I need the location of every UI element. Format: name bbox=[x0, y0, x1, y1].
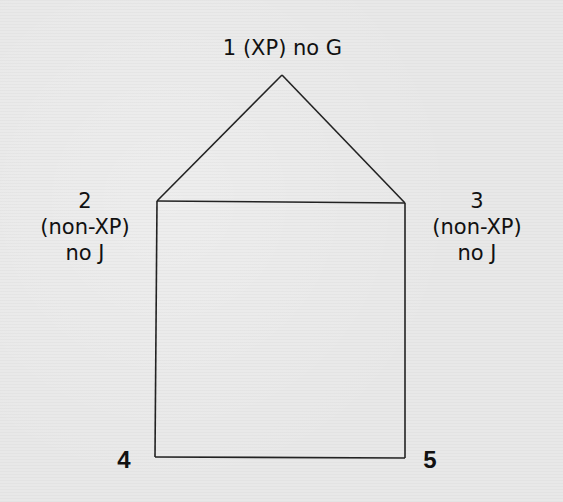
edge-4-5 bbox=[155, 457, 405, 458]
edge-2-3 bbox=[157, 201, 405, 203]
node-3-constraint: no J bbox=[412, 240, 542, 266]
node-3-number: 3 bbox=[412, 188, 542, 214]
node-2-number: 2 bbox=[20, 188, 150, 214]
edge-2-4 bbox=[155, 201, 157, 457]
edge-1-2 bbox=[157, 75, 282, 201]
edge-1-3 bbox=[282, 75, 405, 203]
node-3-label: 3 (non-XP) no J bbox=[412, 188, 542, 266]
node-3-type: (non-XP) bbox=[412, 214, 542, 240]
node-2-label: 2 (non-XP) no J bbox=[20, 188, 150, 266]
node-4-label: 4 bbox=[112, 447, 136, 473]
node-1-text: 1 (XP) no G bbox=[223, 36, 342, 60]
node-5-label: 5 bbox=[418, 447, 442, 473]
node-1-label: 1 (XP) no G bbox=[190, 35, 375, 61]
node-2-constraint: no J bbox=[20, 240, 150, 266]
node-2-type: (non-XP) bbox=[20, 214, 150, 240]
